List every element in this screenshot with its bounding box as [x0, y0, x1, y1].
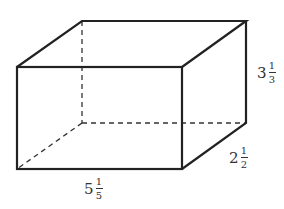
length-denominator: 5 [96, 190, 102, 201]
depth-label: 2 1 2 [229, 145, 248, 170]
visible-edges [17, 21, 246, 169]
front-face [17, 67, 182, 169]
fraction-bar [269, 72, 276, 73]
fraction-bar [241, 157, 248, 158]
fraction-bar [96, 188, 103, 189]
length-whole: 5 [84, 180, 94, 198]
height-label: 3 1 3 [257, 60, 276, 85]
length-numerator: 1 [96, 176, 102, 187]
depth-numerator: 1 [241, 145, 247, 156]
depth-fraction: 1 2 [241, 145, 248, 170]
rectangular-prism [0, 0, 284, 209]
height-fraction: 1 3 [269, 60, 276, 85]
depth-denominator: 2 [241, 159, 247, 170]
depth-whole: 2 [229, 149, 239, 167]
height-numerator: 1 [269, 60, 275, 71]
height-whole: 3 [257, 64, 267, 82]
hidden-edge-depth-bottom-left [17, 123, 82, 169]
length-label: 5 1 5 [84, 176, 103, 201]
length-fraction: 1 5 [96, 176, 103, 201]
top-face-edges [17, 21, 246, 67]
height-denominator: 3 [269, 74, 275, 85]
